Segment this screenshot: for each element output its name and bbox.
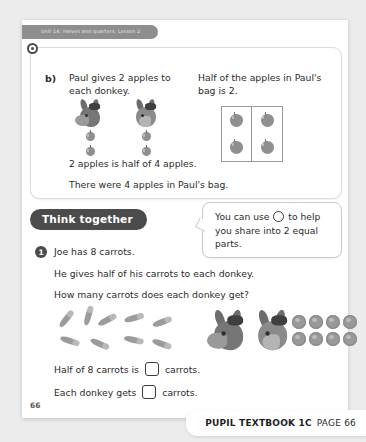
card-marker-icon [27, 43, 38, 54]
page-number: 66 [30, 401, 40, 410]
apple-icon [230, 141, 243, 154]
hint-callout: You can use to help you share into 2 equ… [202, 202, 342, 258]
donkeys-with-apples [73, 100, 183, 156]
apple-grid-cell [252, 134, 282, 161]
question-1-illustration [52, 310, 332, 356]
carrot-icon [82, 305, 94, 326]
hint-callout-text: You can use to help you share into 2 equ… [215, 210, 335, 251]
unit-tab: Unit 14: Halves and quarters, Lesson 2 [22, 25, 158, 39]
apple-icon [230, 114, 243, 127]
apple-icon [261, 114, 274, 127]
apple-icon [261, 141, 274, 154]
counter-icon [309, 315, 323, 329]
carrot-group [52, 310, 202, 356]
question-number-badge: 1 [35, 246, 47, 258]
counter-icon [292, 315, 306, 329]
answer-2-input-box[interactable] [142, 385, 156, 399]
screenshot-root: Unit 14: Halves and quarters, Lesson 2 b… [0, 0, 366, 442]
donkey-icon [129, 100, 163, 128]
footer-book-title: PUPIL TEXTBOOK 1C [205, 418, 312, 428]
donkey-icon [248, 311, 297, 352]
answer-2-text-before: Each donkey gets [54, 387, 136, 398]
counter-icon [343, 315, 357, 329]
card-left-prompt: Paul gives 2 apples to each donkey. [69, 72, 191, 97]
counter-icon [326, 332, 340, 346]
counter-icon [326, 315, 340, 329]
answer-1-input-box[interactable] [145, 362, 159, 376]
apple-grid [221, 106, 283, 162]
apple-icon [142, 132, 151, 141]
answer-1-text-before: Half of 8 carrots is [54, 364, 139, 375]
counter-icon [309, 332, 323, 346]
footer-page-label: PAGE 66 [317, 418, 356, 428]
counter-group [292, 315, 358, 347]
apple-stack [86, 132, 95, 156]
counter-icon [343, 332, 357, 346]
hint-text-before: You can use [215, 211, 269, 222]
textbook-page: Unit 14: Halves and quarters, Lesson 2 b… [22, 20, 348, 418]
donkey-pair [204, 311, 282, 339]
carrot-icon [59, 334, 80, 347]
answer-2-text-after: carrots. [162, 387, 197, 398]
apple-icon [86, 132, 95, 141]
carrot-icon [123, 334, 144, 345]
apple-icon [86, 147, 95, 156]
carrot-icon [123, 311, 144, 323]
card-right-prompt: Half of the apples in Paul's bag is 2. [198, 72, 328, 97]
counter-icon [292, 332, 306, 346]
answer-sentence-2: Each donkey gets carrots. [54, 385, 198, 400]
donkey-group-1 [73, 100, 107, 156]
donkey-icon [73, 100, 107, 128]
question-1-line-1: Joe has 8 carrots. [54, 246, 135, 259]
carrot-icon [151, 337, 172, 350]
question-1-line-3: How many carrots does each donkey get? [54, 289, 249, 302]
question-label-b: b) [45, 73, 56, 84]
unit-tab-label: Unit 14: Halves and quarters, Lesson 2 [22, 29, 140, 34]
donkey-icon [204, 311, 253, 352]
worked-example-card: b) Paul gives 2 apples to each donkey. H… [30, 47, 342, 199]
footer-bar: PUPIL TEXTBOOK 1C PAGE 66 [186, 410, 366, 436]
apple-icon [142, 147, 151, 156]
apple-grid-cell [222, 107, 252, 134]
carrot-icon [97, 312, 118, 328]
counter-circle-icon [273, 211, 284, 222]
apple-grid-cell [222, 134, 252, 161]
card-answer-line-1: 2 apples is half of 4 apples. [69, 158, 197, 171]
card-answer-line-2: There were 4 apples in Paul's bag. [69, 179, 228, 192]
apple-stack [142, 132, 151, 156]
carrot-icon [57, 308, 75, 328]
answer-sentence-1: Half of 8 carrots is carrots. [54, 362, 200, 377]
think-together-heading: Think together [30, 209, 147, 230]
question-1-line-2: He gives half of his carrots to each don… [54, 268, 254, 281]
carrot-icon [151, 315, 172, 328]
donkey-group-2 [129, 100, 163, 156]
answer-1-text-after: carrots. [165, 364, 200, 375]
apple-grid-cell [252, 107, 282, 134]
callout-tail [195, 217, 210, 232]
carrot-icon [89, 336, 110, 351]
